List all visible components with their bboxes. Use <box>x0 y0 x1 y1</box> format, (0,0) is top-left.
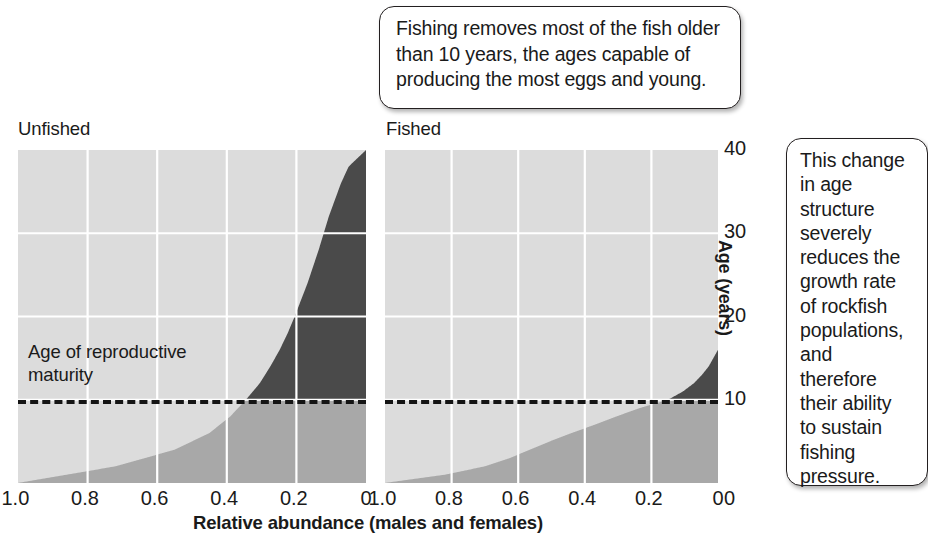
x-tick-fished-0: 0 <box>713 487 724 510</box>
y-axis-title: Age (years) <box>714 240 735 336</box>
maturity-line-fished <box>385 400 718 404</box>
fished-area-group <box>385 350 718 483</box>
fished-plot-svg <box>385 150 718 483</box>
y-tick-10: 10 <box>724 387 746 410</box>
x-tick-fished-1.0: 1.0 <box>369 487 397 510</box>
x-tick-fished-0.4: 0.4 <box>568 487 596 510</box>
maturity-annotation-label: Age of reproductive maturity <box>28 340 187 386</box>
x-axis-title: Relative abundance (males and females) <box>0 512 736 534</box>
unfished-mature-area <box>246 150 366 400</box>
x-tick-fished-0.2: 0.2 <box>635 487 663 510</box>
y-tick-40: 40 <box>724 137 746 160</box>
x-tick-unfished-0.8: 0.8 <box>71 487 99 510</box>
maturity-line-unfished <box>18 400 366 404</box>
callout-top-text: Fishing removes most of the fish older t… <box>396 16 726 93</box>
x-tick-unfished-0.2: 0.2 <box>280 487 308 510</box>
y-tick-0: 0 <box>724 487 735 510</box>
x-tick-unfished-1.0: 1.0 <box>2 487 30 510</box>
panel-title-unfished: Unfished <box>18 118 90 140</box>
unfished-plot-svg <box>18 150 366 483</box>
plot-panel-fished <box>385 150 718 483</box>
callout-right-text: This change in age structure severely re… <box>800 148 917 488</box>
panel-title-fished: Fished <box>386 118 441 140</box>
plot-panel-unfished <box>18 150 366 483</box>
fished-mature-area <box>668 350 718 400</box>
x-tick-fished-0.8: 0.8 <box>435 487 463 510</box>
callout-fishing-removes: Fishing removes most of the fish older t… <box>379 6 741 109</box>
fished-immature-area <box>385 400 718 483</box>
callout-age-structure: This change in age structure severely re… <box>786 138 928 486</box>
x-tick-unfished-0.6: 0.6 <box>141 487 169 510</box>
x-tick-unfished-0.4: 0.4 <box>210 487 238 510</box>
unfished-immature-area <box>18 400 366 483</box>
x-tick-fished-0.6: 0.6 <box>502 487 530 510</box>
